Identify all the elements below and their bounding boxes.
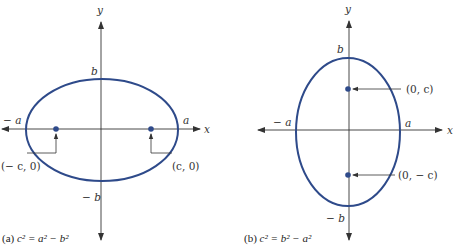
ellipse-a <box>26 79 178 181</box>
b-bottom-label-b: − b <box>326 212 345 224</box>
focus-right-label-a: (c, 0) <box>172 160 199 172</box>
x-label-b: x <box>447 124 453 136</box>
ellipse-b <box>296 58 400 206</box>
caption-a: (a) c² = a² − b² <box>2 232 69 245</box>
a-left-label-b: − a <box>273 116 291 128</box>
b-top-label-b: b <box>337 43 344 55</box>
caption-a-prefix: (a) <box>2 232 17 245</box>
focus-top-label-b: (0, c) <box>406 83 433 95</box>
a-left-label-a: − a <box>3 114 21 126</box>
x-label-a: x <box>204 123 210 135</box>
caption-b-prefix: (b) <box>244 232 260 245</box>
a-right-label-b: a <box>405 117 411 129</box>
focus-left-label-a: (− c, 0) <box>1 160 41 172</box>
focus-top-b <box>345 86 351 92</box>
a-right-label-a: a <box>183 114 189 126</box>
focus-right-a <box>148 126 154 132</box>
b-top-label-a: b <box>91 65 98 77</box>
leader-right-a <box>151 134 172 153</box>
caption-b-equation: c² = b² − a² <box>260 232 312 244</box>
b-bottom-label-a: − b <box>82 191 101 203</box>
focus-left-a <box>53 126 59 132</box>
panel-a: y x b − b − a a (− c, 0) (c, 0) (a) c² =… <box>1 4 210 245</box>
caption-a-equation: c² = a² − b² <box>17 232 69 244</box>
focus-bottom-b <box>345 172 351 178</box>
y-label-b: y <box>344 3 352 15</box>
panel-b: y x b − b − a a (0, c) (0, − c) (b) c² =… <box>244 3 453 245</box>
y-label-a: y <box>96 4 104 16</box>
focus-bottom-label-b: (0, − c) <box>398 169 438 181</box>
caption-b: (b) c² = b² − a² <box>244 232 312 245</box>
